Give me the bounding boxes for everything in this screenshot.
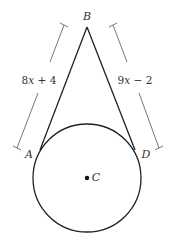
segment-ba xyxy=(40,27,87,150)
length-label-ba: 8x + 4 xyxy=(22,74,57,86)
label-a: A xyxy=(24,148,33,161)
segment-bd xyxy=(87,27,135,150)
coef-bd: 9 xyxy=(118,74,125,86)
label-d: D xyxy=(141,148,151,161)
label-c: C xyxy=(92,171,101,184)
tangent-circle-diagram: B A D C 8x + 4 9x − 2 xyxy=(0,0,174,244)
center-point-c xyxy=(85,176,89,180)
length-label-bd: 9x − 2 xyxy=(118,74,153,86)
rest-ba: + 4 xyxy=(34,74,56,86)
dimension-line-bd xyxy=(109,23,163,150)
coef-ba: 8 xyxy=(22,74,29,86)
rest-bd: − 2 xyxy=(130,74,152,86)
label-b: B xyxy=(82,10,91,23)
